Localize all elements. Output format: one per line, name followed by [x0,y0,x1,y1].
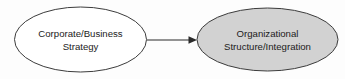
diagram-canvas: Corporate/Business Strategy Organization… [0,0,345,79]
organizational-structure-integration-label-line1: Organizational [237,28,299,39]
arrow-head-icon [189,36,198,44]
diagram-svg: Corporate/Business Strategy Organization… [0,0,345,79]
node-corporate-business-strategy[interactable]: Corporate/Business Strategy [15,7,147,72]
corporate-business-strategy-label-line2: Strategy [63,41,99,52]
organizational-structure-integration-ellipse[interactable] [197,8,338,71]
corporate-business-strategy-ellipse[interactable] [15,7,147,72]
node-organizational-structure-integration[interactable]: Organizational Structure/Integration [197,8,338,71]
organizational-structure-integration-label-line2: Structure/Integration [224,41,311,52]
corporate-business-strategy-label-line1: Corporate/Business [38,28,122,39]
strategy-to-structure-arrow [147,36,197,44]
